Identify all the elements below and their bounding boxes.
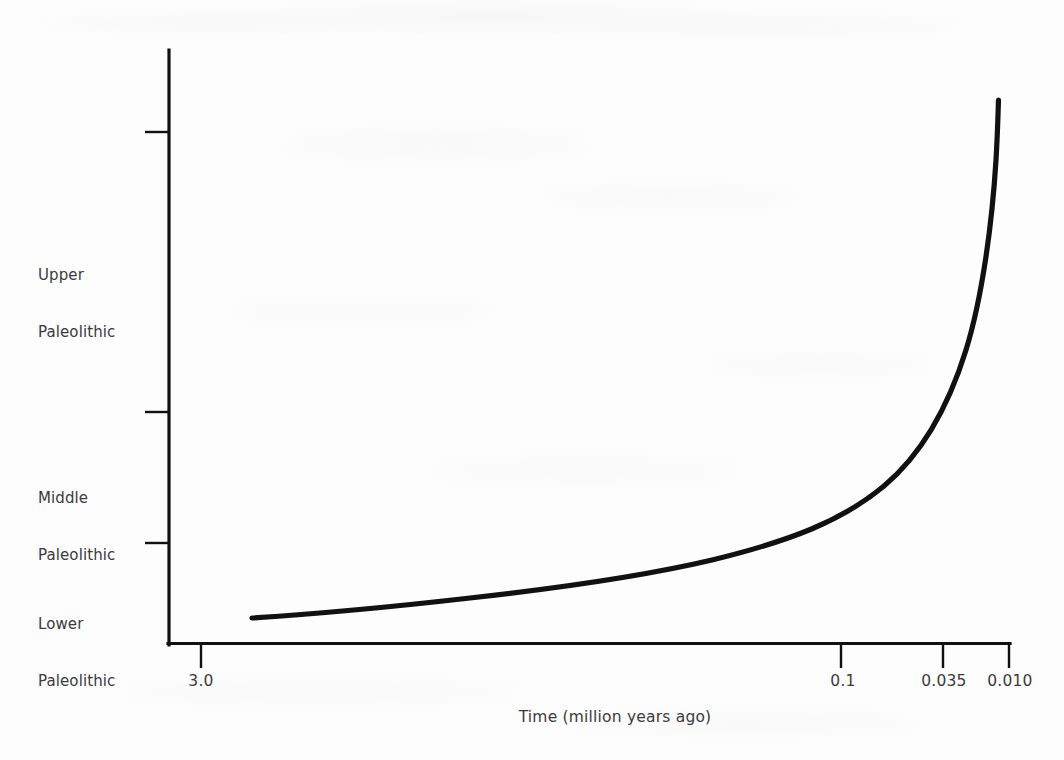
y-tier-middle-line1: Middle xyxy=(38,489,115,508)
y-tier-label-lower-paleolithic: Lower Paleolithic xyxy=(38,577,115,729)
chart-plot-area xyxy=(0,0,1064,760)
figure-page: Upper Paleolithic Middle Paleolithic Low… xyxy=(0,0,1064,760)
y-tier-label-upper-paleolithic: Upper Paleolithic xyxy=(38,228,115,380)
y-tier-lower-line1: Lower xyxy=(38,615,115,634)
x-axis-title: Time (million years ago) xyxy=(519,708,712,727)
x-tick-label-0-035: 0.035 xyxy=(921,672,966,691)
data-curve xyxy=(252,100,999,618)
y-tier-upper-line1: Upper xyxy=(38,266,115,285)
x-tick-label-0-1: 0.1 xyxy=(830,672,855,691)
y-tier-middle-line2: Paleolithic xyxy=(38,546,115,565)
y-tier-upper-line2: Paleolithic xyxy=(38,323,115,342)
x-tick-label-0-010: 0.010 xyxy=(987,672,1032,691)
x-tick-label-3-0: 3.0 xyxy=(188,672,213,691)
y-tier-lower-line2: Paleolithic xyxy=(38,672,115,691)
